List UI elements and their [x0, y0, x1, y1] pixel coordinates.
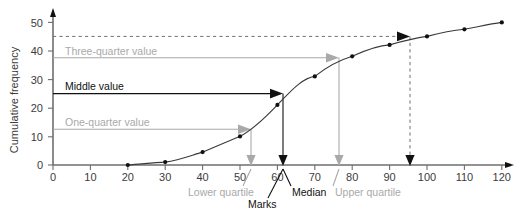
x-tick-label: 50: [234, 171, 246, 183]
data-point: [462, 27, 466, 31]
x-tick-label: 100: [418, 171, 436, 183]
one-quarter-value-label: One-quarter value: [65, 116, 150, 128]
y-axis-ticks: 50 40 30 20 10 0: [31, 17, 53, 172]
data-point: [350, 54, 354, 58]
data-point: [500, 20, 504, 24]
x-tick-label: 80: [346, 171, 358, 183]
data-point: [163, 160, 167, 164]
x-axis-title: Marks: [248, 198, 277, 210]
data-point: [313, 74, 317, 78]
x-tick-label: 40: [196, 171, 208, 183]
data-point: [425, 34, 429, 38]
data-point: [275, 103, 279, 107]
x-tick-label: 30: [159, 171, 171, 183]
y-tick-label: 10: [31, 131, 43, 143]
x-tick-label: 0: [50, 171, 56, 183]
data-point: [238, 134, 242, 138]
x-tick-label: 90: [383, 171, 395, 183]
y-axis: [50, 8, 56, 165]
middle-value-label: Middle value: [65, 80, 124, 92]
y-tick-label: 20: [31, 102, 43, 114]
upper-quartile-label: Upper quartile: [335, 186, 401, 198]
lower-quartile-label: Lower quartile: [188, 186, 254, 198]
y-tick-label: 40: [31, 45, 43, 57]
x-tick-label: 10: [84, 171, 96, 183]
three-quarter-guide: [53, 53, 344, 166]
x-tick-label: 60: [271, 171, 283, 183]
x-tick-label: 70: [309, 171, 321, 183]
data-point: [388, 43, 392, 47]
median-label: Median: [292, 186, 327, 198]
y-axis-title: Cumulative frequency: [8, 46, 20, 153]
data-point: [126, 163, 130, 167]
x-tick-label: 110: [456, 171, 474, 183]
x-tick-label: 120: [493, 171, 511, 183]
chart-svg: Cumulative frequency 50 40 30 20 10 0: [0, 0, 528, 224]
one-quarter-guide: [53, 125, 256, 167]
y-tick-label: 0: [37, 159, 43, 171]
x-tick-label: 20: [122, 171, 134, 183]
cumulative-frequency-chart: Cumulative frequency 50 40 30 20 10 0: [0, 0, 528, 224]
y-tick-label: 50: [31, 17, 43, 29]
y-tick-label: 30: [31, 74, 43, 86]
data-point: [201, 150, 205, 154]
three-quarter-value-label: Three-quarter value: [65, 45, 157, 57]
